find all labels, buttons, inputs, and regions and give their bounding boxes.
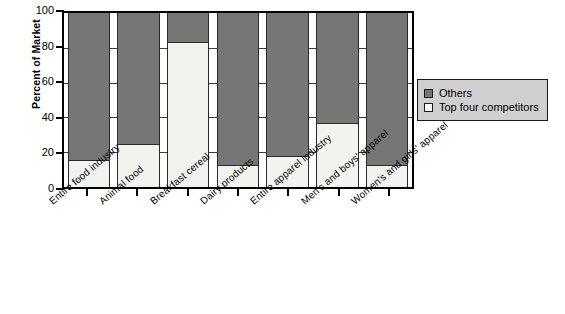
legend-item-label: Top four competitors	[439, 101, 539, 113]
y-axis-tick-label: 40	[18, 111, 54, 123]
x-axis-tick	[136, 189, 138, 196]
bar-segment-others[interactable]	[168, 13, 208, 43]
y-axis-tick-label: 20	[18, 146, 54, 158]
legend-swatch-icon	[424, 103, 433, 112]
bar-segment-others[interactable]	[118, 13, 158, 145]
stacked-bar[interactable]	[117, 13, 159, 187]
plot-area	[62, 11, 414, 189]
bar-group	[117, 13, 159, 187]
x-axis-tick	[86, 189, 88, 196]
x-axis-tick	[287, 189, 289, 196]
stacked-bar-chart: Percent of Market 100806040200 Entire fo…	[0, 0, 565, 314]
bar-segment-others[interactable]	[267, 13, 307, 157]
legend-item-label: Others	[439, 87, 472, 99]
legend-item[interactable]: Others	[424, 87, 539, 99]
legend-swatch-icon	[424, 89, 433, 98]
x-axis-tick	[187, 189, 189, 196]
x-axis-tick	[388, 189, 390, 196]
legend-item[interactable]: Top four competitors	[424, 101, 539, 113]
chart-legend: OthersTop four competitors	[417, 79, 548, 121]
bar-segment-others[interactable]	[218, 13, 258, 166]
y-axis-tick-label: 100	[18, 4, 54, 16]
x-axis-tick	[338, 189, 340, 196]
bar-segment-others[interactable]	[69, 13, 109, 161]
bar-segment-others[interactable]	[317, 13, 357, 124]
x-axis-tick	[237, 189, 239, 196]
y-axis-tick-label: 80	[18, 40, 54, 52]
y-axis-tick-label: 0	[18, 182, 54, 194]
y-axis-tick-label: 60	[18, 75, 54, 87]
